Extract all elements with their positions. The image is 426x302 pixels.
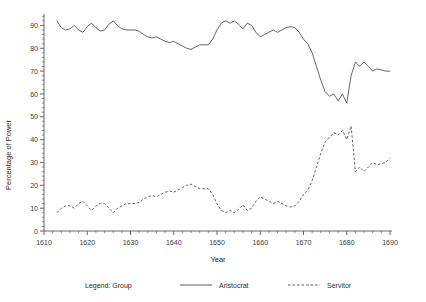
- chart-figure: 0102030405060708090 Percentage of Power …: [0, 0, 426, 302]
- legend-title: Legend: Group: [85, 282, 132, 290]
- x-axis-tick-labels: 161016201630164016501660167016801690: [36, 239, 398, 246]
- y-tick-label: 10: [30, 205, 38, 212]
- x-axis-ticks: [44, 231, 390, 235]
- series-line-aristocrat: [57, 21, 390, 103]
- y-tick-label: 30: [30, 159, 38, 166]
- y-axis-title: Percentage of Power: [4, 119, 13, 190]
- y-tick-label: 90: [30, 22, 38, 29]
- x-tick-label: 1620: [79, 239, 95, 246]
- x-tick-label: 1680: [339, 239, 355, 246]
- y-tick-label: 60: [30, 91, 38, 98]
- x-axis-title: Year: [210, 255, 226, 264]
- x-tick-label: 1670: [296, 239, 312, 246]
- y-tick-label: 20: [30, 182, 38, 189]
- x-tick-label: 1650: [209, 239, 225, 246]
- legend-label-aristocrat: Aristocrat: [219, 282, 249, 289]
- y-axis: 0102030405060708090 Percentage of Power: [4, 14, 44, 235]
- y-tick-label: 50: [30, 113, 38, 120]
- legend-label-servitor: Servitor: [327, 282, 352, 289]
- x-tick-label: 1660: [252, 239, 268, 246]
- y-tick-label: 80: [30, 45, 38, 52]
- x-axis: 161016201630164016501660167016801690 Yea…: [36, 231, 398, 264]
- series-line-servitor: [57, 126, 390, 213]
- y-tick-label: 40: [30, 136, 38, 143]
- y-tick-label: 70: [30, 68, 38, 75]
- x-tick-label: 1640: [166, 239, 182, 246]
- x-tick-label: 1690: [382, 239, 398, 246]
- x-tick-label: 1610: [36, 239, 52, 246]
- y-axis-tick-labels: 0102030405060708090: [30, 22, 38, 235]
- x-tick-label: 1630: [123, 239, 139, 246]
- y-axis-ticks: [40, 16, 44, 231]
- line-chart-canvas: 0102030405060708090 Percentage of Power …: [0, 0, 426, 302]
- legend: Legend: Group Aristocrat Servitor: [85, 282, 352, 290]
- plot-series-group: [57, 21, 390, 213]
- y-tick-label: 0: [34, 228, 38, 235]
